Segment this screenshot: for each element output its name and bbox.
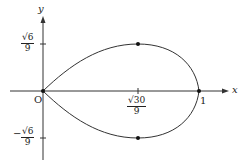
x-one-label: 1 xyxy=(200,96,206,106)
y-top-tick-label: √6 9 xyxy=(21,33,34,54)
point-top xyxy=(136,42,140,46)
y-bottom-tick-label: √6 9 xyxy=(21,127,34,148)
point-origin xyxy=(41,89,45,93)
x-arrow-icon xyxy=(222,89,229,94)
x-mid-tick-label: √30 9 xyxy=(127,96,146,117)
point-bottom xyxy=(136,136,140,140)
diagram: y x O 1 √6 9 − √6 9 √30 9 xyxy=(0,0,246,162)
x-axis-label: x xyxy=(232,85,238,95)
y-arrow-icon xyxy=(41,16,46,23)
y-axis-label: y xyxy=(38,4,44,14)
plot-svg xyxy=(0,0,246,162)
origin-label: O xyxy=(34,95,42,105)
point-right xyxy=(197,89,201,93)
